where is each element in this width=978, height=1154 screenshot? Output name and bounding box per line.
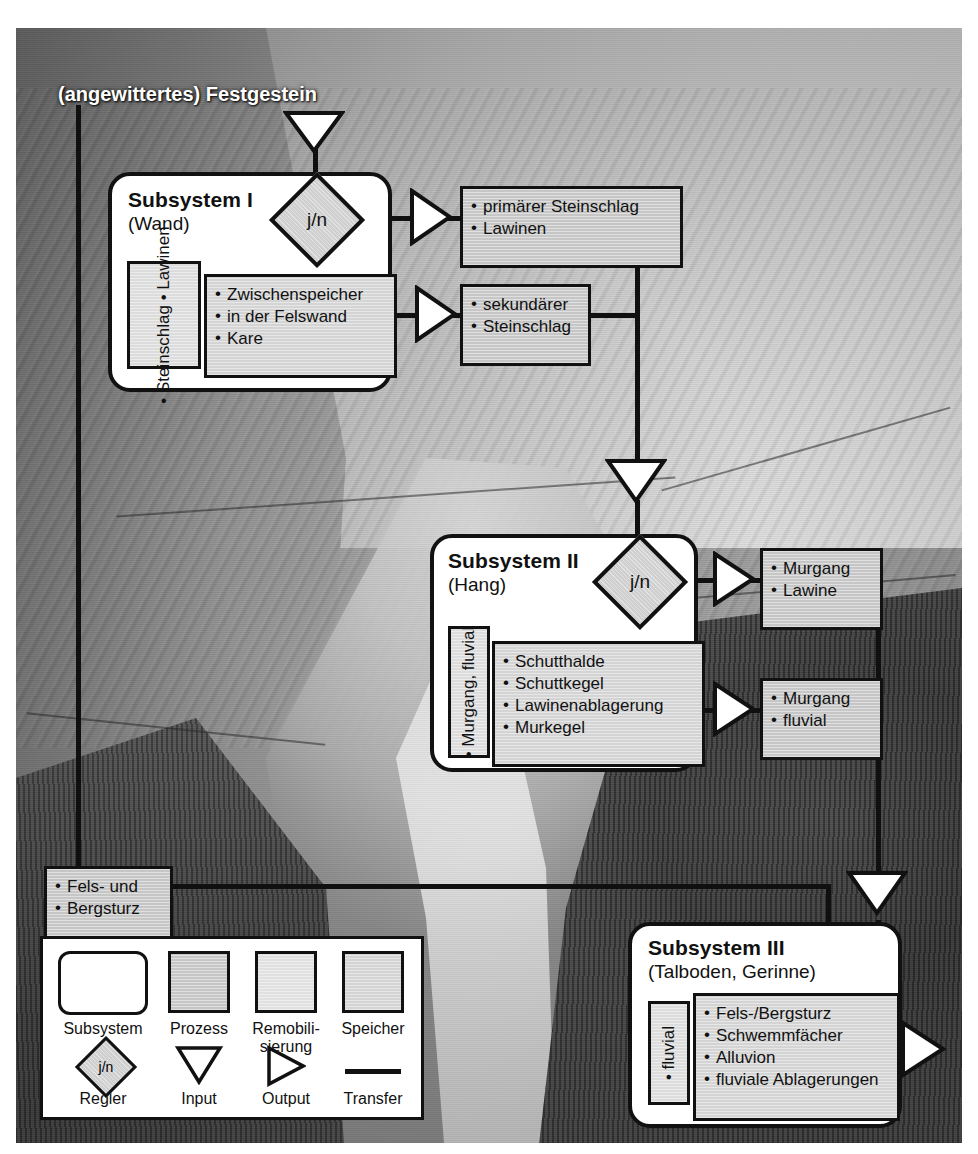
legend-label-output: Output [245,1090,327,1108]
output-triangle-secondary [414,285,458,343]
legend-shape-regler: j/n [75,1036,137,1098]
legend-item-output: Output [245,1043,327,1108]
subsystem-II-storage[interactable]: Schutthalde Schuttkegel Lawinenablagerun… [492,641,705,767]
legend-label-subsystem: Subsystem [57,1020,149,1038]
connector-left-trunk [76,105,81,875]
legend-shape-remobilisierung [255,951,317,1013]
legend-item-input: Input [159,1043,239,1108]
subsystem-III-remobilisation-label: • fluvial [659,1026,679,1080]
legend-label-transfer: Transfer [333,1090,413,1108]
legend-item-speicher: Speicher [333,951,413,1038]
storage-item: Schutthalde [503,651,693,673]
input-triangle-top [283,110,345,154]
storage-item: Murkegel [503,717,693,739]
process-item: Fels- und [55,876,161,898]
legend-label-speicher: Speicher [333,1020,413,1038]
subsystem-III-subtitle: (Talboden, Gerinne) [648,961,816,982]
legend-item-subsystem: Subsystem [57,951,149,1038]
output-triangle-murgang-lawine [712,551,756,607]
connector-felssturz-right [150,884,830,889]
process-murgang-fluvial[interactable]: Murgang fluvial [760,678,883,760]
legend-item-regler: j/n Regler [57,1043,149,1108]
top-label-festgestein: (angewittertes) Festgestein [58,83,317,106]
process-item-cont: Steinschlag [471,316,579,338]
process-item: Murgang [771,688,871,710]
storage-item-cont: in der Felswand [215,306,385,328]
storage-item: Alluvion [704,1047,888,1069]
legend-shape-input-triangle [175,1045,223,1085]
subsystem-III-title: Subsystem III [648,936,785,960]
subsystem-I-remobilisation[interactable]: • Steinschlag • Lawinen [127,261,201,369]
process-sekundaerer-steinschlag[interactable]: sekundärer Steinschlag [460,284,591,366]
legend-shape-transfer-line [345,1069,401,1074]
connector-primary-down [635,252,640,467]
subsystem-II-title: Subsystem II [448,549,579,573]
subsystem-II-remobilisation[interactable]: • Murgang, fluvial [448,626,490,758]
controller-I-label: j/n [307,209,327,231]
cropped-caption-strip [0,0,978,16]
process-primaerer-steinschlag[interactable]: primärer Steinschlag Lawinen [460,186,683,268]
legend-regler-text: j/n [99,1059,114,1075]
storage-item: Schuttkegel [503,673,693,695]
process-item: fluvial [771,710,871,732]
process-item: Murgang [771,558,871,580]
subsystem-III-storage[interactable]: Fels-/Bergsturz Schwemmfächer Alluvion f… [693,993,900,1121]
input-triangle-subsystem-II [605,458,667,504]
subsystem-I-title: Subsystem I [128,188,253,212]
storage-item: Kare [215,328,385,350]
process-item: Lawinen [471,218,671,240]
legend-item-remobilisierung: Remobili- sierung [245,951,327,1056]
storage-item: Fels-/Bergsturz [704,1003,888,1025]
input-triangle-subsystem-III-right [846,870,908,916]
subsystem-I-storage[interactable]: Zwischenspeicher in der Felswand Kare [204,274,397,378]
output-triangle-subsystem-III [900,1020,946,1078]
subsystem-I-remobilisation-label: • Steinschlag • Lawinen [154,226,174,403]
subsystem-II-remobilisation-label: • Murgang, fluvial [459,627,479,758]
process-item: Bergsturz [55,898,161,920]
process-murgang-lawine[interactable]: Murgang Lawine [760,548,883,630]
process-item: sekundärer [471,294,579,316]
legend-shape-speicher [342,951,404,1013]
figure-root: (angewittertes) Festgestein Subsystem I … [0,0,978,1154]
storage-item: Schwemmfächer [704,1025,888,1047]
output-triangle-primary [409,188,453,246]
legend-item-prozess: Prozess [159,951,239,1038]
legend-label-input: Input [159,1090,239,1108]
legend-label-prozess: Prozess [159,1020,239,1038]
legend-shape-subsystem [58,951,148,1015]
controller-II-label: j/n [630,571,650,593]
output-triangle-murgang-fluvial [712,681,756,737]
legend-item-transfer: Transfer [333,1043,413,1108]
process-item: Lawine [771,580,871,602]
storage-item: fluviale Ablagerungen [704,1069,888,1091]
legend-panel: Subsystem Prozess Remobili- sierung Spei… [40,936,424,1120]
storage-item: Zwischenspeicher [215,284,385,306]
subsystem-III-remobilisation[interactable]: • fluvial [648,1001,690,1105]
legend-label-remobilisierung-1: Remobili- [245,1020,327,1038]
legend-shape-output-triangle [266,1045,306,1087]
process-item: primärer Steinschlag [471,196,671,218]
storage-item: Lawinenablagerung [503,695,693,717]
legend-shape-prozess [168,951,230,1013]
subsystem-II-subtitle: (Hang) [448,574,506,595]
